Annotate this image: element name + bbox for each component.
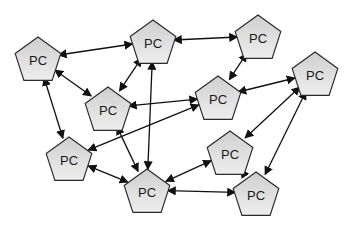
- edge-n4-n5: [129, 99, 198, 106]
- node-label: PC: [138, 185, 156, 200]
- edge-n7-n8: [88, 166, 128, 182]
- network-diagram: PCPCPCPCPCPCPCPCPCPC: [0, 0, 355, 226]
- pc-node-n10[interactable]: PC: [233, 172, 279, 215]
- pc-node-n3[interactable]: PC: [235, 15, 281, 58]
- edge-n1-n7: [44, 78, 63, 139]
- node-label: PC: [29, 53, 47, 68]
- pc-node-n1[interactable]: PC: [15, 37, 61, 80]
- edge-n8-n10: [168, 191, 236, 193]
- pc-node-n4[interactable]: PC: [85, 87, 131, 130]
- node-label: PC: [144, 36, 162, 51]
- node-label: PC: [306, 68, 324, 83]
- edge-n1-n2: [58, 44, 132, 55]
- node-label: PC: [99, 103, 117, 118]
- node-label: PC: [249, 31, 267, 46]
- node-label: PC: [209, 92, 227, 107]
- edge-n2-n8: [148, 62, 152, 170]
- pc-node-n5[interactable]: PC: [195, 76, 241, 119]
- pc-node-n6[interactable]: PC: [292, 52, 338, 95]
- edge-n4-n8: [117, 127, 138, 172]
- edge-n6-n10: [265, 92, 306, 175]
- edge-n8-n9: [166, 161, 211, 182]
- nodes-layer: PCPCPCPCPCPCPCPCPCPC: [15, 15, 338, 215]
- edge-n1-n4: [55, 70, 91, 96]
- edge-n6-n9: [245, 87, 300, 138]
- pc-node-n7[interactable]: PC: [46, 137, 92, 180]
- diagram-svg: PCPCPCPCPCPCPCPCPCPC: [0, 0, 355, 226]
- edge-n5-n6: [238, 78, 295, 92]
- pc-node-n2[interactable]: PC: [130, 20, 176, 63]
- pc-node-n8[interactable]: PC: [124, 169, 170, 212]
- edge-n2-n3: [174, 37, 238, 40]
- node-label: PC: [221, 147, 239, 162]
- node-label: PC: [247, 188, 265, 203]
- node-label: PC: [60, 153, 78, 168]
